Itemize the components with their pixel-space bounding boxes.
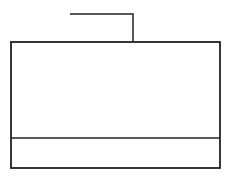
diagram-svg [0,0,229,176]
diagram-canvas [0,0,229,176]
connector-line [70,14,133,42]
main-box [11,42,220,168]
